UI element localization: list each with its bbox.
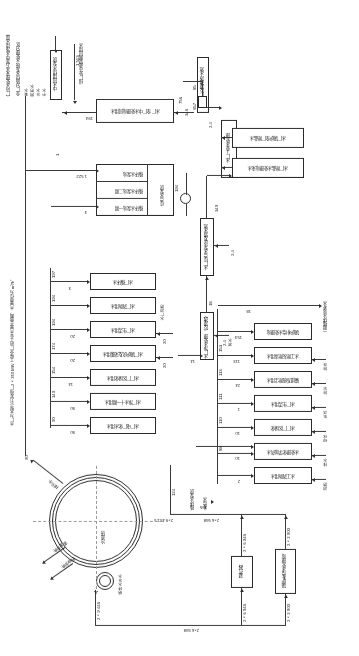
label-municipal-return: 排厂外市政管网回用水 bbox=[80, 44, 85, 84]
box-clearwell-pumphouse[interactable]: 水厂综合水泵房及清水池 bbox=[200, 218, 214, 276]
line-t-coal bbox=[218, 379, 251, 380]
arrow-green bbox=[251, 426, 254, 430]
arrow-reclaim-riser bbox=[54, 50, 58, 53]
note-right: 水厂为大型火力发电厂2×350 MW 工程全厂的工业水量平衡图，水量单位为 m³… bbox=[10, 277, 15, 426]
line-grp2 bbox=[26, 170, 96, 171]
arrow-tap-ash bbox=[312, 358, 315, 362]
num-90-blowdown: 90 bbox=[25, 455, 29, 460]
line-t-demin bbox=[218, 331, 251, 332]
label-cooling-tower: 冷却塔 bbox=[102, 532, 107, 544]
num-124: 124 bbox=[172, 489, 176, 496]
arrow-blowdown bbox=[29, 459, 34, 464]
line-r4 bbox=[51, 329, 87, 330]
riser-88: 88 bbox=[219, 446, 223, 451]
box-condenser[interactable]: 凝汽器 bbox=[231, 556, 253, 588]
box-demin-station[interactable]: 锅炉补给水处理站 bbox=[275, 549, 296, 594]
num-1-bottom: 1 522 bbox=[77, 174, 87, 178]
box-area-greening[interactable]: 水厂厂区绿化用水 bbox=[90, 369, 156, 386]
line-t-fire bbox=[218, 475, 251, 476]
arrow-municipal bbox=[73, 101, 77, 104]
qty-r2: 14 bbox=[68, 382, 73, 386]
arrow-r1 bbox=[87, 400, 90, 404]
box-phase1-water[interactable]: 水厂净水十一期用水 bbox=[90, 393, 156, 410]
drawing-sheet: 锅炉补给水处理站 凝汽器 2×2 900 2×2 900 2×6 948 2×6… bbox=[0, 0, 359, 656]
box-plant-greening[interactable]: 水厂厂区绿化 bbox=[254, 419, 312, 436]
label-circ-makeup: 循环水补水 bbox=[119, 574, 123, 594]
box-desalt-source[interactable]: 水厂除盐水处理站来水 bbox=[232, 158, 304, 178]
group-divider bbox=[147, 164, 148, 216]
arrow-demin-out bbox=[284, 516, 288, 519]
arrow-r3 bbox=[87, 352, 90, 356]
line-phase1-makeup bbox=[218, 305, 319, 306]
box-coal-dust[interactable]: 输煤系统除尘用水 bbox=[254, 371, 312, 388]
caption-bottom-left: 全厂分质供水系统 水处理分区 bbox=[16, 43, 21, 96]
num-85a: 657 bbox=[193, 103, 197, 110]
riser-113: 113 bbox=[219, 369, 223, 376]
tap-label-coal: 除尘 bbox=[324, 386, 328, 394]
line-reclaim-riser bbox=[55, 36, 56, 50]
box-demin-makeup[interactable]: 锅炉补给水处理站 bbox=[254, 323, 312, 340]
group-title: 综合水泵房 bbox=[161, 186, 166, 206]
num-18-left: 18 bbox=[246, 309, 251, 313]
arrow-dom bbox=[251, 402, 254, 406]
label-mid-water: 中水 bbox=[43, 88, 47, 96]
label-incoming-water: 来水 bbox=[25, 88, 29, 96]
arrow-ash bbox=[251, 354, 254, 358]
box-boiler-heating[interactable]: 水厂锅炉房及采暖用水 bbox=[90, 345, 156, 362]
line-r6 bbox=[51, 281, 87, 282]
box-chem-dosing[interactable]: 水处理化学加药水 bbox=[254, 443, 312, 460]
tower-centerline-v bbox=[96, 466, 97, 594]
num-267: 194 bbox=[175, 185, 179, 192]
line-t-chem bbox=[218, 453, 251, 454]
tower-centerline-h bbox=[33, 521, 163, 522]
cum-r3: 174 bbox=[52, 343, 56, 350]
flow-2x6948-header: 2×6 948 bbox=[184, 628, 199, 632]
line-municipal bbox=[74, 44, 75, 100]
line-grp0 bbox=[51, 206, 96, 207]
flow-2x6948-b: 2×6 948 bbox=[243, 534, 247, 552]
flow-2x6948-a: 2×6 948 bbox=[243, 604, 247, 622]
qty-r3: 20 bbox=[70, 358, 75, 362]
line-clearwell-down bbox=[206, 176, 207, 218]
arrow-conc-pond bbox=[219, 106, 222, 110]
line-ro-in-14 bbox=[178, 355, 200, 356]
box-chem-water-use[interactable]: 水厂电厂化水用水 bbox=[90, 417, 156, 434]
box-plant-circ[interactable]: 水厂循环水 bbox=[90, 273, 156, 290]
arrow-desalt2 bbox=[222, 136, 225, 140]
tap-label-green: 绿化 bbox=[324, 434, 328, 442]
arrow-phase1-makeup bbox=[319, 304, 322, 308]
arrow-tap-dom bbox=[312, 406, 315, 410]
num-346: 2.4 bbox=[209, 122, 213, 128]
box-reclaim-pumphouse[interactable]: 中水回用供水泵房 bbox=[50, 50, 62, 100]
riser-111: 111 bbox=[219, 394, 223, 400]
drawing-stage: 锅炉补给水处理站 凝汽器 2×2 900 2×2 900 2×6 948 2×6… bbox=[0, 0, 359, 656]
box-ash-slag[interactable]: 水工除灰除渣用水 bbox=[254, 347, 312, 364]
box-reclaim-station[interactable]: 水厂全厂中水处理站回用水 bbox=[96, 99, 174, 123]
line-r3 bbox=[51, 353, 87, 354]
cum-r5: 194 bbox=[52, 295, 56, 302]
box-domestic-water[interactable]: 水厂生活用水 bbox=[254, 395, 312, 412]
arrow-clearwell-in bbox=[215, 244, 218, 248]
box-desalt-boiler[interactable]: 水厂锅炉全厂除盐水 bbox=[232, 128, 304, 148]
line-reclaim-out bbox=[62, 112, 96, 113]
line-t-dom bbox=[218, 403, 251, 404]
num-657: 756 bbox=[179, 97, 183, 104]
box-fire-water[interactable]: 水工消防用水 bbox=[254, 467, 312, 484]
line-top-header bbox=[96, 625, 286, 626]
num-3: 1 513 bbox=[76, 56, 80, 66]
arrow-105 bbox=[211, 500, 214, 504]
box-plant-fire[interactable]: 水厂消防用水 bbox=[90, 297, 156, 314]
line-t-ash bbox=[218, 355, 251, 356]
rt-20b: 20 bbox=[163, 339, 167, 344]
box-ro-treatment[interactable]: 水厂净水处理（反渗透） bbox=[200, 312, 214, 360]
qty-r4: 20 bbox=[70, 334, 75, 338]
arrow-grp0 bbox=[96, 205, 99, 209]
valve-box[interactable] bbox=[198, 96, 207, 108]
arrow-rt-dom bbox=[157, 332, 160, 336]
riser-110: 110 bbox=[219, 417, 223, 424]
cum-r0: 90 bbox=[52, 417, 56, 422]
label-pumphouse: 循环水泵房 bbox=[191, 490, 196, 510]
box-plant-domestic[interactable]: 水厂生活用水 bbox=[90, 321, 156, 338]
arrow-desalt1 bbox=[222, 166, 225, 170]
label-makeup: 补水 bbox=[37, 88, 41, 96]
